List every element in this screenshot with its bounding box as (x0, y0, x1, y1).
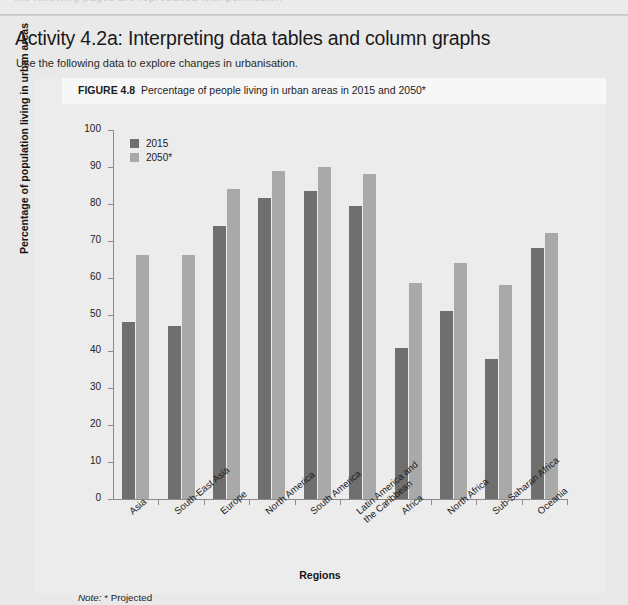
bar-group (440, 130, 467, 499)
x-axis-title: Regions (34, 569, 606, 581)
bar-group (485, 130, 512, 499)
y-axis-title: Percentage of population living in urban… (18, 0, 30, 254)
bar-group (168, 130, 195, 499)
bar-2015-latin-america-and-the-caribbean (349, 206, 362, 499)
bar-2015-north-america (258, 198, 271, 499)
x-axis-tick-mark (158, 499, 159, 505)
y-axis-tick-label: 100 (84, 123, 101, 134)
y-axis-tick-label: 10 (90, 455, 101, 466)
bar-2015-south-east-asia (168, 326, 181, 499)
y-axis-tick-label: 30 (90, 381, 101, 392)
bar-group (304, 130, 331, 499)
figure-number: FIGURE 4.8 (78, 84, 135, 96)
bar-2050-latin-america-and-the-caribbean (363, 174, 376, 499)
y-axis-tick-label: 90 (90, 160, 101, 171)
bar-2050-europe (227, 189, 240, 499)
x-axis-tick-mark (340, 499, 341, 505)
note-text: * Projected (104, 592, 152, 603)
y-axis-tick-label: 60 (90, 271, 101, 282)
cut-off-text-ghost: the following pages are reproduced with … (14, 0, 282, 3)
figure-note: Note: * Projected (78, 592, 152, 603)
figure-caption-text: Percentage of people living in urban are… (141, 84, 426, 96)
bar-2015-south-america (304, 191, 317, 499)
bar-2050-south-east-asia (182, 255, 195, 499)
y-axis-tick-label: 0 (95, 492, 101, 503)
y-axis-tick-label: 70 (90, 234, 101, 245)
bar-2015-europe (213, 226, 226, 499)
figure-caption: FIGURE 4.8 Percentage of people living i… (78, 84, 426, 96)
bar-group (122, 130, 149, 499)
bar-2015-oceania (531, 248, 544, 499)
scan-top-strip: the following pages are reproduced with … (0, 0, 628, 14)
bar-group (258, 130, 285, 499)
bar-2050-south-america (318, 167, 331, 499)
x-axis-tick-mark (295, 499, 296, 505)
x-axis-tick-mark (204, 499, 205, 505)
bar-group (213, 130, 240, 499)
x-axis-tick-mark (431, 499, 432, 505)
bar-2050-north-america (272, 171, 285, 499)
y-axis-tick-label: 20 (90, 418, 101, 429)
bar-group (395, 130, 422, 499)
worksheet-page: Activity 4.2a: Interpreting data tables … (0, 16, 628, 605)
y-axis-tick-label: 50 (90, 308, 101, 319)
figure-panel: FIGURE 4.8 Percentage of people living i… (34, 78, 606, 594)
page-title: Activity 4.2a: Interpreting data tables … (15, 27, 490, 50)
column-chart: Percentage of population living in urban… (34, 104, 606, 594)
x-axis-tick-mark (249, 499, 250, 505)
x-axis-tick-mark (522, 499, 523, 505)
y-axis-tick-label: 40 (90, 344, 101, 355)
bar-2015-north-africa (440, 311, 453, 499)
bar-group (349, 130, 376, 499)
bar-2050-asia (136, 255, 149, 499)
page-subtitle: Use the following data to explore change… (16, 57, 298, 69)
y-axis-tick-label: 80 (90, 197, 101, 208)
bar-2050-sub-saharan-africa (499, 285, 512, 499)
plot-area (113, 130, 567, 499)
x-axis-tick-mark (476, 499, 477, 505)
y-axis-tick-mark (108, 499, 113, 500)
bar-2050-north-africa (454, 263, 467, 499)
x-axis-tick-mark (567, 499, 568, 505)
bar-group (531, 130, 558, 499)
note-word: Note: (78, 592, 101, 603)
bar-2015-asia (122, 322, 135, 499)
bar-2015-sub-saharan-africa (485, 359, 498, 499)
